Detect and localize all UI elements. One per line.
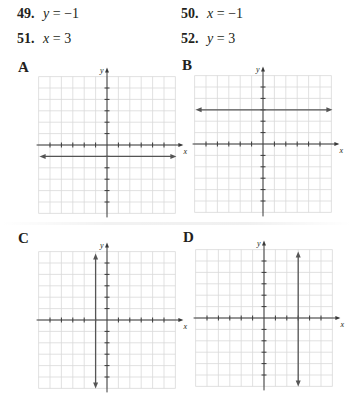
y-axis-label: y [256, 239, 261, 248]
y-axis-arrow-icon [262, 241, 266, 246]
line-arrow-down-icon [296, 380, 301, 386]
x-axis-label: x [339, 320, 344, 329]
line-arrow-up-icon [296, 252, 301, 258]
graph-d: xy [0, 0, 353, 396]
